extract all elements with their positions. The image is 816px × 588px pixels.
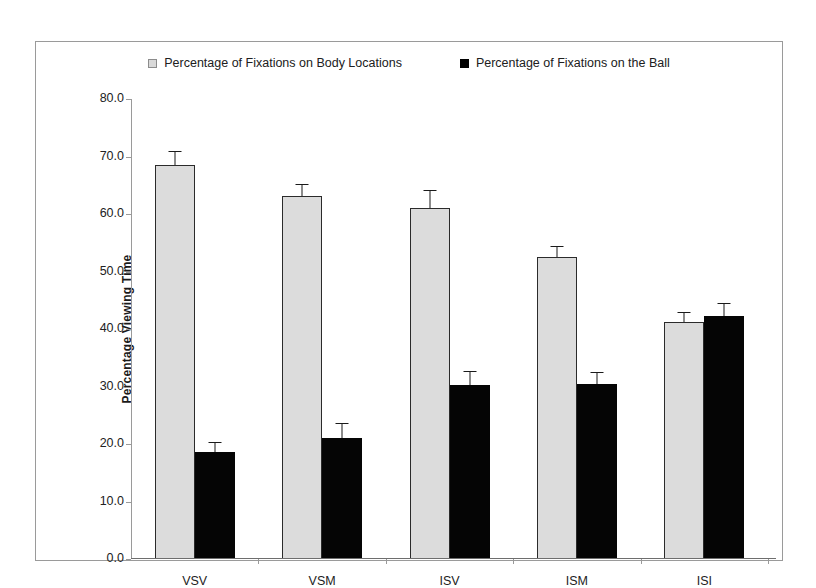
- bar-rect: [282, 196, 322, 559]
- y-axis-tick-label: 70.0: [100, 149, 124, 163]
- x-axis-tick-label: ISI: [641, 574, 768, 588]
- y-axis-tick-label: 20.0: [100, 436, 124, 450]
- y-axis-tick-label: 40.0: [100, 321, 124, 335]
- x-axis-tick-label: ISM: [513, 574, 640, 588]
- error-bar: [556, 247, 557, 257]
- error-bar-cap: [423, 190, 436, 191]
- bar-rect: [322, 438, 362, 559]
- error-bar-cap: [550, 246, 563, 247]
- error-bar: [429, 191, 430, 208]
- bar-rect: [195, 452, 235, 559]
- x-axis-tick-label: VSV: [131, 574, 258, 588]
- bar-body-locations: [537, 99, 577, 559]
- error-bar-cap: [208, 442, 221, 443]
- error-bar: [174, 152, 175, 165]
- bar-rect: [704, 316, 744, 559]
- bar-group: ISV: [386, 99, 513, 559]
- bar-rect: [664, 322, 704, 559]
- bar-ball: [577, 99, 617, 559]
- y-axis-tick-label: 0.0: [107, 551, 124, 565]
- x-axis-tick-mark: [258, 559, 259, 564]
- error-bar: [342, 424, 343, 437]
- x-axis-tick-label: VSM: [258, 574, 385, 588]
- error-bar: [214, 443, 215, 452]
- error-bar-cap: [296, 184, 309, 185]
- plot-area: Percentage Viewing Time 80.070.060.050.0…: [131, 99, 768, 559]
- error-bar-cap: [678, 312, 691, 313]
- x-axis-tick-mark: [641, 559, 642, 564]
- black-square-marker-icon: [460, 59, 469, 68]
- bar-rect: [577, 384, 617, 559]
- x-axis-tick-mark: [513, 559, 514, 564]
- y-axis-tick-label: 50.0: [100, 264, 124, 278]
- error-bar: [724, 304, 725, 317]
- bar-rect: [410, 208, 450, 559]
- y-axis-tick-label: 30.0: [100, 379, 124, 393]
- bar-group: ISM: [513, 99, 640, 559]
- error-bar: [469, 372, 470, 385]
- bar-body-locations: [410, 99, 450, 559]
- y-axis-tick-label: 80.0: [100, 91, 124, 105]
- bar-ball: [450, 99, 490, 559]
- figure-frame: Percentage of Fixations on Body Location…: [35, 41, 783, 561]
- error-bar-cap: [168, 151, 181, 152]
- y-axis-tick-label: 10.0: [100, 494, 124, 508]
- light-square-marker-icon: [148, 59, 157, 68]
- bar-rect: [450, 385, 490, 559]
- bar-ball: [322, 99, 362, 559]
- error-bar-cap: [463, 371, 476, 372]
- error-bar: [302, 185, 303, 195]
- bar-body-locations: [155, 99, 195, 559]
- error-bar-cap: [336, 423, 349, 424]
- error-bar-cap: [718, 303, 731, 304]
- legend-entry-body-locations: Percentage of Fixations on Body Location…: [148, 56, 402, 70]
- y-axis-tick-label: 60.0: [100, 206, 124, 220]
- chart-legend: Percentage of Fixations on Body Location…: [36, 56, 782, 70]
- legend-label-ball: Percentage of Fixations on the Ball: [476, 56, 670, 70]
- bar-ball: [195, 99, 235, 559]
- bar-body-locations: [282, 99, 322, 559]
- bar-rect: [537, 257, 577, 559]
- x-axis-line: [131, 558, 776, 559]
- legend-label-body-locations: Percentage of Fixations on Body Location…: [164, 56, 402, 70]
- x-axis-tick-label: ISV: [386, 574, 513, 588]
- y-axis-tick-mark: [126, 559, 131, 560]
- legend-entry-ball: Percentage of Fixations on the Ball: [460, 56, 670, 70]
- bar-group: VSM: [258, 99, 385, 559]
- bar-body-locations: [664, 99, 704, 559]
- bar-rect: [155, 165, 195, 559]
- bar-ball: [704, 99, 744, 559]
- error-bar: [596, 373, 597, 385]
- x-axis-tick-mark: [768, 559, 769, 564]
- error-bar: [684, 313, 685, 322]
- bar-groups: VSVVSMISVISMISI: [131, 99, 768, 559]
- bar-group: VSV: [131, 99, 258, 559]
- error-bar-cap: [590, 372, 603, 373]
- bar-group: ISI: [641, 99, 768, 559]
- x-axis-tick-mark: [386, 559, 387, 564]
